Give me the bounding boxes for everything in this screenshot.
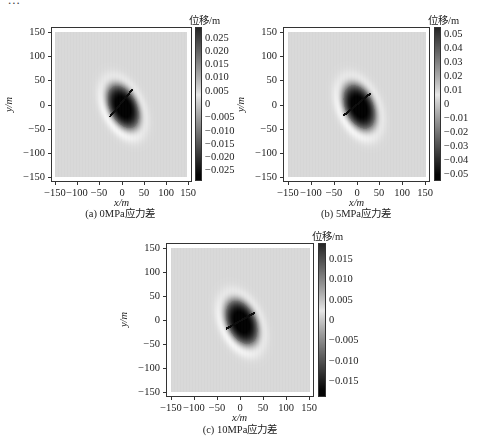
colorbar-tick-label: 0.010: [205, 71, 229, 82]
colorbar-tick-label: −0.04: [444, 154, 468, 165]
x-tick-mark: [144, 182, 145, 185]
y-tick-label: 150: [130, 242, 160, 253]
colorbar-tick-label: −0.020: [205, 151, 235, 162]
colorbar-tick-label: 0.02: [444, 70, 462, 81]
y-tick-label: −150: [247, 171, 277, 182]
x-tick-mark: [99, 182, 100, 185]
colorbar-tick-label: −0.005: [329, 334, 359, 345]
y-tick-label: 100: [130, 266, 160, 277]
x-tick-mark: [334, 182, 335, 185]
colorbar-tick-label: 0: [205, 98, 210, 109]
colorbar-tick-label: −0.015: [205, 138, 235, 149]
colorbar-tick-label: −0.010: [329, 355, 359, 366]
y-tick-label: 50: [15, 74, 45, 85]
figure-caption: (a) 0MPa应力差: [40, 205, 200, 220]
colorbar-tick-label: 0.04: [444, 42, 462, 53]
colorbar: [318, 243, 326, 397]
y-axis-label: y/m: [118, 312, 129, 327]
displacement-field-heatmap: [55, 32, 187, 177]
y-tick-mark: [48, 129, 51, 130]
x-tick-mark: [55, 182, 56, 185]
y-tick-mark: [163, 344, 166, 345]
y-tick-mark: [48, 177, 51, 178]
colorbar-tick-label: 0.01: [444, 84, 462, 95]
colorbar: [434, 27, 441, 181]
y-tick-mark: [163, 248, 166, 249]
x-tick-label: 150: [173, 187, 203, 198]
colorbar-tick-label: 0.05: [444, 28, 462, 39]
y-tick-mark: [163, 296, 166, 297]
y-tick-label: −50: [15, 123, 45, 134]
colorbar-tick-label: −0.02: [444, 126, 468, 137]
y-tick-label: 150: [247, 26, 277, 37]
y-tick-mark: [163, 368, 166, 369]
y-tick-label: −100: [130, 362, 160, 373]
colorbar-title: 位移/m: [428, 12, 459, 27]
colorbar-tick-label: 0.020: [205, 45, 229, 56]
displacement-field-heatmap: [288, 32, 426, 177]
y-tick-label: 150: [15, 26, 45, 37]
colorbar-tick-label: 0.010: [329, 273, 353, 284]
x-tick-label: 150: [410, 187, 440, 198]
y-tick-mark: [48, 105, 51, 106]
y-tick-mark: [280, 153, 283, 154]
y-tick-label: 100: [247, 50, 277, 61]
y-tick-mark: [280, 32, 283, 33]
y-tick-mark: [163, 392, 166, 393]
y-axis-label: y/m: [235, 97, 246, 112]
colorbar-tick-label: −0.05: [444, 168, 468, 179]
displacement-field-heatmap: [171, 248, 310, 392]
y-tick-mark: [48, 80, 51, 81]
x-tick-mark: [263, 397, 264, 400]
colorbar-tick-label: 0.03: [444, 56, 462, 67]
x-tick-mark: [288, 182, 289, 185]
y-tick-mark: [280, 129, 283, 130]
colorbar-tick-label: 0.015: [205, 58, 229, 69]
y-tick-mark: [280, 177, 283, 178]
y-tick-mark: [280, 56, 283, 57]
y-tick-label: −150: [130, 386, 160, 397]
y-tick-mark: [163, 272, 166, 273]
x-tick-mark: [357, 182, 358, 185]
x-tick-mark: [286, 397, 287, 400]
y-tick-label: −100: [247, 147, 277, 158]
y-tick-label: −50: [130, 338, 160, 349]
y-tick-mark: [48, 56, 51, 57]
colorbar-tick-label: 0.025: [205, 32, 229, 43]
colorbar-title: 位移/m: [189, 12, 220, 27]
x-tick-mark: [425, 182, 426, 185]
x-tick-mark: [166, 182, 167, 185]
colorbar-tick-label: 0.005: [329, 294, 353, 305]
x-tick-mark: [379, 182, 380, 185]
y-tick-label: 0: [15, 99, 45, 110]
y-tick-label: −150: [15, 171, 45, 182]
x-tick-mark: [309, 397, 310, 400]
cropped-body-text: ...: [8, 0, 21, 8]
x-tick-mark: [122, 182, 123, 185]
colorbar-tick-label: −0.01: [444, 112, 468, 123]
figure-caption: (c) 10MPa应力差: [160, 421, 320, 436]
y-tick-label: −50: [247, 123, 277, 134]
x-tick-mark: [240, 397, 241, 400]
y-tick-mark: [48, 32, 51, 33]
y-tick-label: 50: [130, 290, 160, 301]
x-tick-mark: [194, 397, 195, 400]
x-tick-mark: [311, 182, 312, 185]
colorbar: [195, 27, 202, 181]
colorbar-title: 位移/m: [312, 228, 343, 243]
colorbar-tick-label: −0.025: [205, 164, 235, 175]
colorbar-tick-label: −0.015: [329, 375, 359, 386]
colorbar-tick-label: 0: [329, 314, 334, 325]
x-tick-mark: [217, 397, 218, 400]
colorbar-tick-label: −0.010: [205, 125, 235, 136]
colorbar-tick-label: 0.015: [329, 253, 353, 264]
colorbar-tick-label: 0: [444, 98, 449, 109]
x-tick-mark: [188, 182, 189, 185]
y-tick-label: −100: [15, 147, 45, 158]
figure-caption: (b) 5MPa应力差: [276, 205, 436, 220]
colorbar-tick-label: 0.005: [205, 85, 229, 96]
y-tick-label: 0: [130, 314, 160, 325]
y-tick-label: 0: [247, 99, 277, 110]
y-tick-label: 50: [247, 74, 277, 85]
x-tick-label: 150: [294, 402, 324, 413]
